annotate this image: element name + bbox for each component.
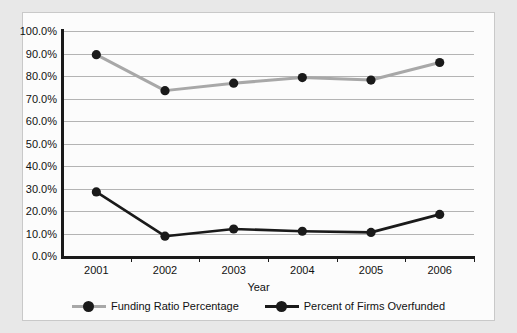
legend-swatch	[72, 300, 106, 312]
y-axis-tick-label: 10.0%	[26, 229, 57, 240]
gridline	[62, 211, 474, 212]
y-axis-tick-label: 80.0%	[26, 71, 57, 82]
legend-item[interactable]: Funding Ratio Percentage	[72, 300, 239, 312]
y-axis-tick-label: 30.0%	[26, 184, 57, 195]
chart-figure: 100.0%90.0%80.0%70.0%60.0%50.0%40.0%30.0…	[0, 0, 517, 333]
y-axis-tick-label: 90.0%	[26, 49, 57, 60]
legend-label: Percent of Firms Overfunded	[304, 300, 445, 312]
x-axis-tick-label: 2006	[427, 265, 451, 276]
y-axis-tick-label: 0.0%	[32, 251, 57, 262]
legend-swatch	[265, 300, 299, 312]
x-axis-tick-label: 2003	[221, 265, 245, 276]
y-axis-tick-label: 70.0%	[26, 94, 57, 105]
legend-marker	[276, 301, 287, 312]
x-axis-tick-label: 2001	[84, 265, 108, 276]
x-axis-tick-label: 2002	[153, 265, 177, 276]
x-axis-tick-label: 2005	[359, 265, 383, 276]
x-axis-tick	[199, 256, 200, 262]
gridline	[62, 31, 474, 32]
y-axis-tick-label: 50.0%	[26, 139, 57, 150]
legend-item[interactable]: Percent of Firms Overfunded	[265, 300, 445, 312]
gridline	[62, 189, 474, 190]
chart-legend: Funding Ratio PercentagePercent of Firms…	[0, 300, 517, 312]
y-axis-line	[61, 29, 64, 258]
y-axis-tick-label: 60.0%	[26, 116, 57, 127]
x-axis-tick	[474, 256, 475, 262]
gridline	[62, 121, 474, 122]
x-axis-title: Year	[0, 281, 517, 293]
gridline	[62, 54, 474, 55]
gridline	[62, 144, 474, 145]
gridline	[62, 76, 474, 77]
x-axis-tick	[131, 256, 132, 262]
gridline	[62, 166, 474, 167]
y-axis-tick-label: 100.0%	[20, 26, 57, 37]
legend-marker	[83, 301, 94, 312]
plot-area	[62, 31, 474, 256]
gridline	[62, 99, 474, 100]
legend-label: Funding Ratio Percentage	[111, 300, 239, 312]
x-axis-tick	[405, 256, 406, 262]
gridline	[62, 234, 474, 235]
x-axis-tick	[268, 256, 269, 262]
y-axis-tick-label: 40.0%	[26, 161, 57, 172]
x-axis-tick-label: 2004	[290, 265, 314, 276]
x-axis-tick	[337, 256, 338, 262]
y-axis-tick-label: 20.0%	[26, 206, 57, 217]
